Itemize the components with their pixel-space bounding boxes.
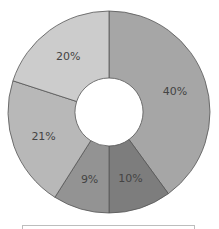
slice-label: 21% [31, 130, 55, 143]
legend-box [22, 225, 195, 229]
slice-label: 40% [163, 85, 187, 98]
slice-label: 20% [56, 50, 80, 63]
donut-chart: 40%10%9%21%20% [0, 0, 219, 229]
donut-slices [8, 11, 210, 213]
slice-label: 9% [81, 173, 98, 186]
slice-label: 10% [118, 172, 142, 185]
